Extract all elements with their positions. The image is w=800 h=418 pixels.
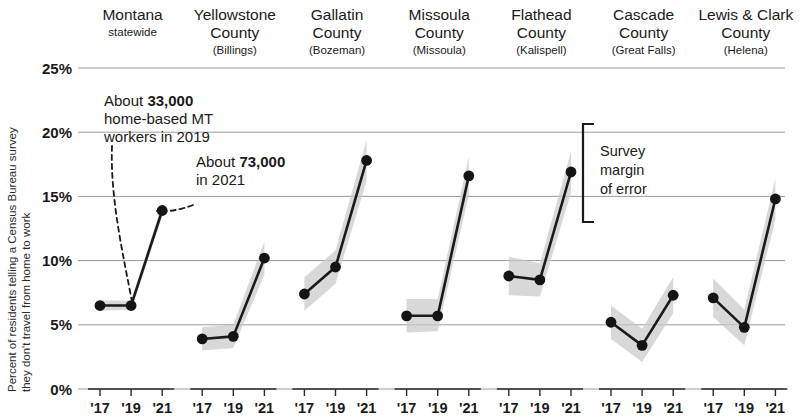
data-point[interactable] xyxy=(299,289,310,300)
data-point[interactable] xyxy=(637,340,648,351)
x-axis-tick-label: '17 xyxy=(601,400,621,416)
panel-title: Yellowstone xyxy=(194,6,276,23)
x-axis-tick-label: '17 xyxy=(90,400,110,416)
panel-subtitle: County xyxy=(721,24,770,41)
panel-subtitle: County xyxy=(517,24,566,41)
panel-title: Cascade xyxy=(613,6,674,23)
margin-of-error-text: Surveymarginof error xyxy=(600,143,647,197)
small-multiples-line-chart: 0%5%10%15%20%25%Percent of residents tel… xyxy=(0,0,800,418)
panel-place: (Missoula) xyxy=(413,44,466,56)
data-point[interactable] xyxy=(95,300,106,311)
y-axis-tick-25: 25% xyxy=(42,60,72,77)
data-point[interactable] xyxy=(463,170,474,181)
panel-place: (Billings) xyxy=(213,44,257,56)
x-axis-tick-label: '17 xyxy=(703,400,723,416)
x-axis-tick-label: '21 xyxy=(766,400,786,416)
margin-of-error-band xyxy=(100,204,162,311)
x-axis-tick-label: '17 xyxy=(192,400,212,416)
y-axis-tick-5: 5% xyxy=(50,316,72,333)
x-axis-tick-label: '21 xyxy=(561,400,581,416)
panel-subtitle: County xyxy=(619,24,668,41)
annotation-2021: About 73,000in 2021 xyxy=(157,153,285,211)
data-point[interactable] xyxy=(401,310,412,321)
annotation-2019-text: About 33,000home-based MTworkers in 2019 xyxy=(103,92,213,145)
data-point[interactable] xyxy=(708,292,719,303)
data-point[interactable] xyxy=(197,334,208,345)
panel-subtitle: County xyxy=(415,24,464,41)
data-point[interactable] xyxy=(503,271,514,282)
x-axis-tick-label: '21 xyxy=(255,400,275,416)
data-point[interactable] xyxy=(361,155,372,166)
data-point[interactable] xyxy=(228,331,239,342)
x-axis-tick-label: '21 xyxy=(663,400,683,416)
margin-of-error-band xyxy=(407,157,469,333)
x-axis-tick-label: '19 xyxy=(121,400,141,416)
x-axis-tick-label: '17 xyxy=(295,400,315,416)
series-line xyxy=(100,211,162,306)
x-axis-tick-label: '19 xyxy=(428,400,448,416)
x-axis-tick-label: '21 xyxy=(152,400,172,416)
x-axis-tick-label: '19 xyxy=(632,400,652,416)
panel-subtitle: County xyxy=(312,24,361,41)
annotation-2021-text: About 73,000in 2021 xyxy=(196,153,285,188)
data-point[interactable] xyxy=(606,317,617,328)
panel-subtitle: County xyxy=(210,24,259,41)
margin-of-error-band xyxy=(713,178,775,345)
x-axis-tick-label: '17 xyxy=(499,400,519,416)
annotation-2019: About 33,000home-based MTworkers in 2019 xyxy=(103,92,213,302)
y-axis-tick-20: 20% xyxy=(42,124,72,141)
x-axis-tick-label: '19 xyxy=(326,400,346,416)
y-axis-tick-10: 10% xyxy=(42,252,72,269)
x-axis-tick-label: '21 xyxy=(459,400,479,416)
x-axis-tick-label: '19 xyxy=(224,400,244,416)
data-point[interactable] xyxy=(259,253,270,264)
panel-place: (Helena) xyxy=(724,44,768,56)
y-axis-label: Percent of residents telling a Census Bu… xyxy=(6,127,32,392)
panel-place: (Great Falls) xyxy=(612,44,676,56)
data-point[interactable] xyxy=(535,274,546,285)
panel-title: Montana xyxy=(102,6,163,23)
panel-subtitle: statewide xyxy=(108,26,157,38)
margin-of-error-bracket xyxy=(583,124,594,222)
data-point[interactable] xyxy=(770,194,781,205)
y-axis-tick-15: 15% xyxy=(42,188,72,205)
panel-title: Gallatin xyxy=(311,6,364,23)
annotation-2019-leader-line xyxy=(112,146,132,302)
panel-title: Missoula xyxy=(409,6,471,23)
x-axis-tick-label: '19 xyxy=(530,400,550,416)
x-axis-tick-label: '21 xyxy=(357,400,377,416)
y-axis-tick-0: 0% xyxy=(50,381,72,398)
data-point[interactable] xyxy=(330,262,341,273)
x-axis-tick-label: '19 xyxy=(735,400,755,416)
panel-title: Lewis & Clark xyxy=(698,6,793,23)
panel-title: Flathead xyxy=(511,6,571,23)
x-axis-tick-label: '17 xyxy=(397,400,417,416)
data-point[interactable] xyxy=(566,167,577,178)
panel-place: (Bozeman) xyxy=(309,44,365,56)
data-point[interactable] xyxy=(668,290,679,301)
data-point[interactable] xyxy=(432,310,443,321)
chart-figure: 0%5%10%15%20%25%Percent of residents tel… xyxy=(0,0,800,418)
panel-place: (Kalispell) xyxy=(516,44,567,56)
annotation-margin-of-error: Surveymarginof error xyxy=(583,124,647,222)
data-point[interactable] xyxy=(739,322,750,333)
